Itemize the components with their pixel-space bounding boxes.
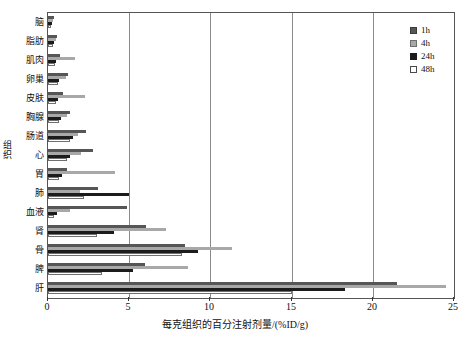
bar (48, 44, 53, 47)
y-axis-title: 组织 (0, 140, 14, 160)
x-axis-tick-label: 5 (126, 301, 131, 313)
legend-item[interactable]: 48h (410, 63, 462, 75)
bar (48, 120, 59, 123)
x-axis-tick-labels: 0510152025 (47, 301, 453, 315)
bar (48, 63, 55, 66)
legend-item-label: 4h (421, 38, 430, 48)
legend-item-label: 1h (421, 25, 430, 35)
bar (48, 196, 84, 199)
plot-inner (48, 13, 454, 298)
legend-swatch-icon (410, 40, 417, 47)
y-axis-tick-label: 肠道 (26, 131, 44, 141)
bar (48, 25, 51, 28)
y-axis-tick-label: 肾 (35, 226, 44, 236)
y-axis-tick-label: 肝 (35, 283, 44, 293)
bar (48, 291, 292, 294)
legend-item-label: 24h (421, 51, 435, 61)
x-axis-tick-label: 15 (286, 301, 296, 313)
y-axis-tick-labels: 脑脂肪肌肉卵巢皮肤胸腺肠道心胃肺血液肾骨脾肝 (14, 12, 46, 297)
chart-legend: 1h4h24h48h (410, 24, 462, 76)
x-axis-tick-label: 10 (204, 301, 214, 313)
bar (48, 215, 54, 218)
legend-swatch-icon (410, 53, 417, 60)
y-axis-tick-label: 肺 (35, 188, 44, 198)
x-axis-tick-label: 0 (45, 301, 50, 313)
bar (48, 139, 70, 142)
y-axis-tick-label: 血液 (26, 207, 44, 217)
y-axis-tick-label: 脑 (35, 17, 44, 27)
legend-item-label: 48h (421, 64, 435, 74)
y-axis-tick-label: 骨 (35, 245, 44, 255)
plot-area (47, 12, 455, 299)
y-axis-tick-label: 脾 (35, 264, 44, 274)
legend-item[interactable]: 4h (410, 37, 462, 49)
bar (48, 101, 56, 104)
bar (48, 234, 97, 237)
y-axis-tick-label: 肌肉 (26, 55, 44, 65)
x-axis-tick-label: 25 (448, 301, 458, 313)
y-axis-title-char: 组 (0, 140, 14, 150)
y-axis-tick-label: 胃 (35, 169, 44, 179)
gridline (210, 13, 211, 298)
y-axis-title-char: 织 (0, 150, 14, 160)
gridline (292, 13, 293, 298)
y-axis-tick-label: 胸腺 (26, 112, 44, 122)
x-axis-title: 每克组织的百分注射剂量/(%ID/g) (0, 318, 470, 331)
bar (48, 177, 59, 180)
bar (48, 253, 182, 256)
legend-swatch-icon (410, 66, 417, 73)
gridline (373, 13, 374, 298)
y-axis-tick-label: 脂肪 (26, 36, 44, 46)
legend-item[interactable]: 1h (410, 24, 462, 36)
y-axis-tick-label: 心 (35, 150, 44, 160)
x-axis-tick-label: 20 (367, 301, 377, 313)
bar-chart: 组织 脑脂肪肌肉卵巢皮肤胸腺肠道心胃肺血液肾骨脾肝 0510152025 每克组… (0, 0, 470, 347)
bar (48, 82, 58, 85)
bar (48, 272, 102, 275)
y-axis-tick-label: 皮肤 (26, 93, 44, 103)
bar (48, 158, 67, 161)
y-axis-tick-label: 卵巢 (26, 74, 44, 84)
legend-item[interactable]: 24h (410, 50, 462, 62)
legend-swatch-icon (410, 27, 417, 34)
